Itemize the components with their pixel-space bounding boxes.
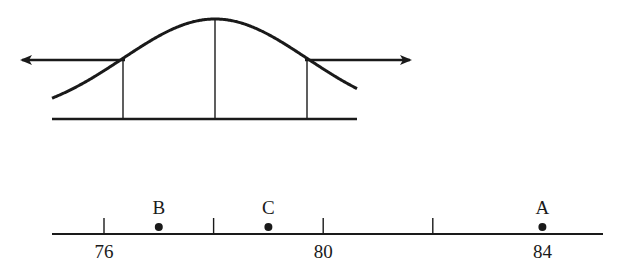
- point-a-marker: [538, 223, 546, 231]
- bell-curve: [52, 19, 357, 98]
- tick-label: 84: [533, 241, 553, 262]
- point-b-marker: [155, 223, 163, 231]
- point-b-label: B: [152, 197, 165, 218]
- bell-curve-group: [22, 19, 410, 119]
- point-c-marker: [264, 223, 272, 231]
- diagram-canvas: 768084 BCA: [0, 0, 625, 275]
- point-a-label: A: [536, 197, 550, 218]
- number-line-points: BCA: [152, 197, 549, 231]
- tick-label: 76: [95, 241, 114, 262]
- tick-label: 80: [314, 241, 333, 262]
- number-line-group: 768084 BCA: [52, 197, 603, 262]
- point-c-label: C: [262, 197, 275, 218]
- curve-vertical-lines: [123, 19, 307, 119]
- normal-distribution-diagram: 768084 BCA: [0, 0, 625, 275]
- number-line-ticks: 768084: [95, 218, 553, 262]
